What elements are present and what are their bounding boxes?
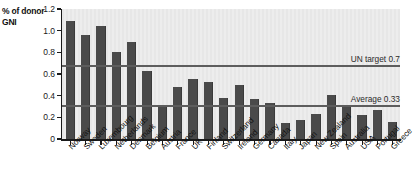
y-tick-mark [57, 52, 61, 53]
reference-line [62, 105, 400, 106]
y-tick-label: 1.2 [33, 4, 55, 14]
bar [296, 120, 305, 140]
y-tick-mark [57, 95, 61, 96]
reference-line-label: UN target 0.7 [351, 54, 400, 64]
y-tick-label: 0.8 [33, 47, 55, 57]
y-tick-label: 1.0 [33, 26, 55, 36]
y-tick-mark [57, 138, 61, 139]
y-tick-label: 0.6 [33, 69, 55, 79]
bar [81, 35, 90, 139]
bar [373, 110, 382, 139]
y-tick-mark [57, 30, 61, 31]
bar [204, 82, 213, 139]
bar [66, 21, 75, 139]
y-tick-label: 0.2 [33, 112, 55, 122]
category-labels: NorwaySwedenLuxembourgNetherlandsDenmark… [0, 145, 403, 196]
y-tick-mark [57, 73, 61, 74]
y-tick-mark [57, 117, 61, 118]
y-tick-label: 0 [33, 134, 55, 144]
y-tick-label: 0.4 [33, 91, 55, 101]
reference-line [62, 65, 400, 66]
y-tick-mark [57, 8, 61, 9]
reference-line-label: Average 0.33 [351, 94, 400, 104]
bar [96, 26, 105, 139]
